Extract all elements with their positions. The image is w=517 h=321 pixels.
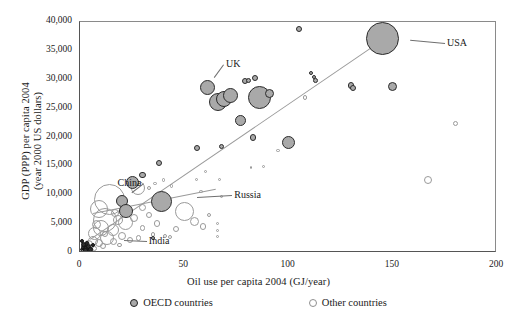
y-axis-title-text: GDP (PPP) per capita 2004 (year 2000 US … — [20, 82, 45, 200]
legend-label-other: Other countries — [322, 297, 387, 308]
data-point[interactable] — [162, 178, 166, 182]
x-tick-label: 0 — [59, 259, 99, 269]
y-tick-mark — [79, 138, 80, 139]
data-point[interactable] — [424, 176, 432, 184]
x-tick-mark — [184, 251, 185, 252]
y-tick-label: 5,000 — [26, 217, 72, 227]
data-point[interactable] — [110, 238, 117, 245]
data-point[interactable] — [100, 243, 106, 249]
data-point[interactable] — [453, 121, 458, 126]
data-point[interactable] — [102, 231, 108, 237]
data-point[interactable] — [200, 223, 207, 230]
data-point[interactable] — [88, 247, 92, 251]
data-point[interactable] — [216, 235, 219, 238]
data-point[interactable] — [170, 184, 173, 187]
y-tick-label: 35,000 — [26, 44, 72, 54]
data-point[interactable] — [190, 217, 199, 226]
y-tick-mark — [79, 80, 80, 81]
data-point[interactable] — [207, 213, 211, 217]
y-tick-label: 40,000 — [26, 15, 72, 25]
y-tick-label: 25,000 — [26, 102, 72, 112]
data-point[interactable] — [235, 115, 246, 126]
data-point[interactable] — [118, 232, 126, 240]
y-tick-label: 20,000 — [26, 131, 72, 141]
annotation-label: Russia — [234, 189, 261, 200]
x-axis-title: Oil use per capita 2004 (GJ/year) — [0, 276, 517, 287]
data-point[interactable] — [303, 95, 307, 99]
annotation-label: India — [149, 235, 170, 246]
figure-scatter-oil-vs-gdp: GDP (PPP) per capita 2004 (year 2000 US … — [0, 0, 517, 321]
y-tick-mark — [79, 195, 80, 196]
data-point[interactable] — [216, 229, 219, 232]
y-tick-mark — [79, 22, 80, 23]
y-tick-mark — [79, 224, 80, 225]
data-point[interactable] — [250, 134, 257, 141]
data-point[interactable] — [200, 80, 215, 95]
other-marker-icon — [309, 299, 317, 307]
trend-line — [90, 30, 397, 240]
data-point[interactable] — [216, 222, 219, 225]
legend-item-oecd: OECD countries — [130, 297, 213, 308]
data-point[interactable] — [156, 160, 162, 166]
x-tick-mark — [289, 251, 290, 252]
annotation-leader-line — [411, 40, 446, 44]
y-tick-mark — [79, 109, 80, 110]
annotation-label: USA — [447, 37, 467, 48]
y-tick-mark — [79, 166, 80, 167]
data-point[interactable] — [246, 78, 251, 83]
data-point[interactable] — [173, 226, 179, 232]
data-point[interactable] — [117, 243, 122, 248]
oecd-marker-icon — [130, 299, 138, 307]
data-point[interactable] — [90, 200, 108, 218]
x-tick-label: 150 — [372, 259, 412, 269]
data-point[interactable] — [265, 89, 274, 98]
data-point[interactable] — [140, 225, 146, 231]
data-point[interactable] — [195, 178, 198, 181]
x-tick-label: 50 — [163, 259, 203, 269]
data-point[interactable] — [366, 22, 399, 55]
data-point[interactable] — [252, 75, 258, 81]
x-tick-mark — [393, 251, 394, 252]
x-tick-label: 100 — [268, 259, 308, 269]
data-point[interactable] — [92, 220, 101, 229]
data-point[interactable] — [83, 248, 88, 252]
data-point[interactable] — [296, 26, 302, 32]
data-point[interactable] — [204, 170, 207, 173]
data-point[interactable] — [312, 75, 316, 79]
data-point[interactable] — [154, 220, 160, 226]
y-tick-label: 30,000 — [26, 73, 72, 83]
annotation-leader-line — [214, 64, 224, 77]
data-point[interactable] — [194, 145, 200, 151]
data-point[interactable] — [218, 178, 221, 181]
x-tick-label: 200 — [476, 259, 516, 269]
data-point[interactable] — [350, 85, 356, 91]
y-tick-label: 10,000 — [26, 188, 72, 198]
legend-label-oecd: OECD countries — [143, 297, 213, 308]
data-point[interactable] — [85, 241, 89, 245]
data-point[interactable] — [250, 166, 253, 169]
data-point[interactable] — [262, 165, 265, 168]
legend-item-other: Other countries — [309, 297, 387, 308]
annotation-label: UK — [226, 58, 240, 69]
data-point[interactable] — [282, 136, 295, 149]
data-point[interactable] — [388, 82, 397, 91]
legend: OECD countries Other countries — [0, 297, 517, 308]
data-point[interactable] — [147, 186, 151, 190]
data-point[interactable] — [276, 149, 279, 152]
y-tick-label: 15,000 — [26, 159, 72, 169]
annotation-leader-line — [198, 195, 233, 198]
data-point[interactable] — [151, 191, 172, 212]
data-point[interactable] — [223, 88, 238, 103]
data-point[interactable] — [139, 204, 146, 211]
data-point[interactable] — [153, 182, 156, 185]
y-tick-label: 0 — [26, 246, 72, 256]
y-tick-mark — [79, 51, 80, 52]
plot-area: USAUKChinaIndiaRussia — [79, 21, 496, 252]
data-point[interactable] — [199, 190, 202, 193]
data-point[interactable] — [146, 212, 152, 218]
